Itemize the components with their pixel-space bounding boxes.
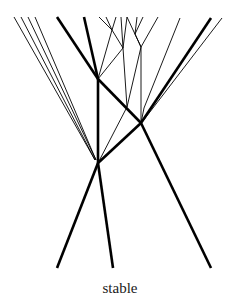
thin-lines <box>14 17 222 163</box>
thick-line-1 <box>98 79 141 123</box>
thin-line-5 <box>106 17 112 30</box>
thin-line-23 <box>143 18 222 121</box>
thin-line-8 <box>98 30 112 79</box>
thin-line-3 <box>35 17 96 160</box>
thin-line-10 <box>123 17 127 48</box>
thin-line-20 <box>127 47 141 107</box>
thin-line-1 <box>21 17 95 160</box>
thin-line-6 <box>112 30 123 48</box>
thin-line-2 <box>28 17 96 160</box>
thin-line-12 <box>123 48 127 107</box>
thin-line-0 <box>14 17 95 160</box>
thin-line-7 <box>112 17 116 30</box>
diagram-caption: stable <box>0 280 228 297</box>
thick-line-6 <box>98 123 141 163</box>
thick-lines <box>57 17 211 268</box>
thin-line-11 <box>98 48 123 79</box>
thick-line-2 <box>141 123 211 268</box>
thick-line-7 <box>57 163 98 268</box>
thin-line-4 <box>99 17 112 30</box>
thin-line-13 <box>98 107 127 163</box>
thick-line-5 <box>141 18 211 123</box>
thin-line-17 <box>127 17 141 47</box>
wave-interaction-diagram <box>0 0 228 299</box>
thick-line-8 <box>98 163 113 268</box>
thin-line-9 <box>121 17 123 48</box>
thin-line-18 <box>141 17 158 47</box>
